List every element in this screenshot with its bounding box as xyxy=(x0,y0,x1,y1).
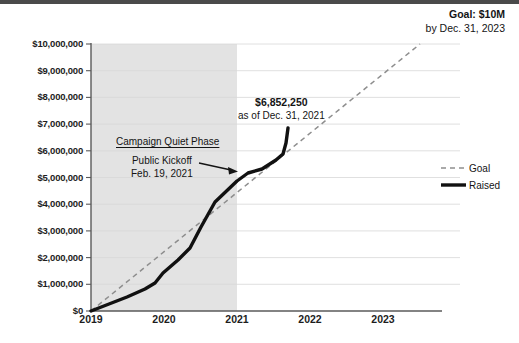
goal-callout-date: by Dec. 31, 2023 xyxy=(426,22,505,36)
y-tick-label-1m: $1,000,000 xyxy=(5,278,83,289)
x-tick-label-2023: 2023 xyxy=(359,313,407,325)
public-kickoff-date: Feb. 19, 2021 xyxy=(131,168,193,181)
y-tick-label-10m: $10,000,000 xyxy=(5,38,83,49)
quiet-phase-label: Campaign Quiet Phase xyxy=(116,136,219,147)
goal-callout: Goal: $10M by Dec. 31, 2023 xyxy=(426,8,505,35)
public-kickoff-title: Public Kickoff xyxy=(131,155,193,168)
public-kickoff-callout: Public Kickoff Feb. 19, 2021 xyxy=(131,155,193,180)
y-tick-label-4m: $4,000,000 xyxy=(5,198,83,209)
x-tick-label-2021: 2021 xyxy=(213,313,261,325)
raised-callout: $6,852,250 as of Dec. 31, 2021 xyxy=(238,96,325,122)
legend-label-goal: Goal xyxy=(469,163,490,174)
y-axis-ticks xyxy=(86,44,91,311)
raised-callout-amount: $6,852,250 xyxy=(238,96,325,109)
raised-callout-date: as of Dec. 31, 2021 xyxy=(238,109,325,122)
y-tick-label-6m: $6,000,000 xyxy=(5,145,83,156)
legend-label-raised: Raised xyxy=(469,180,500,191)
y-tick-label-3m: $3,000,000 xyxy=(5,225,83,236)
y-tick-label-5m: $5,000,000 xyxy=(5,172,83,183)
y-tick-label-2m: $2,000,000 xyxy=(5,252,83,263)
y-tick-label-8m: $8,000,000 xyxy=(5,91,83,102)
x-tick-label-2020: 2020 xyxy=(140,313,188,325)
goal-callout-amount: Goal: $10M xyxy=(426,8,505,22)
chart-stage: $10,000,000 $9,000,000 $8,000,000 $7,000… xyxy=(0,0,519,343)
y-tick-label-9m: $9,000,000 xyxy=(5,65,83,76)
x-tick-label-2022: 2022 xyxy=(286,313,334,325)
x-tick-label-2019: 2019 xyxy=(67,313,115,325)
y-tick-label-7m: $7,000,000 xyxy=(5,118,83,129)
